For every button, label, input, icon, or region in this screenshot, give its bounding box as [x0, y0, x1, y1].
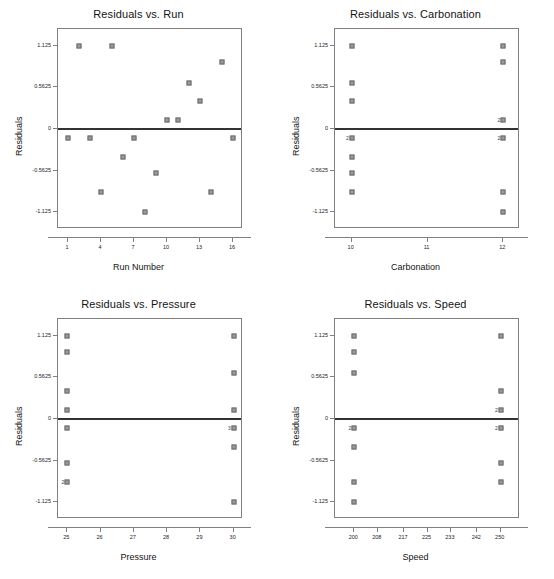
x-tick-label: 27 [130, 534, 136, 540]
x-tick-label: 25 [63, 534, 69, 540]
plot-frame [57, 28, 242, 228]
data-point [65, 389, 70, 394]
data-point [231, 500, 236, 505]
data-point [65, 350, 70, 355]
zero-reference-line [58, 418, 241, 420]
point-overlap-count: 2 [498, 135, 502, 141]
data-point [349, 189, 354, 194]
x-tick-mark [403, 528, 404, 532]
x-tick-label: 1 [65, 244, 68, 250]
x-tick-label: 225 [422, 534, 431, 540]
x-axis-label: Pressure [0, 552, 277, 562]
data-point [209, 189, 214, 194]
zero-reference-line [335, 128, 518, 130]
data-point [98, 189, 103, 194]
x-tick-label: 12 [499, 244, 505, 250]
y-axis-label: Residuals [14, 116, 24, 156]
y-tick-mark [330, 335, 334, 336]
data-point [231, 426, 236, 431]
y-tick-label: 0 [2, 415, 51, 421]
y-tick-mark [53, 45, 57, 46]
y-tick-mark [330, 86, 334, 87]
data-point [76, 43, 81, 48]
data-point [498, 333, 503, 338]
y-tick-mark [53, 128, 57, 129]
y-tick-label: 0.5625 [2, 373, 51, 379]
data-point [65, 461, 70, 466]
zero-reference-line [335, 418, 518, 420]
y-tick-label: 1.125 [2, 332, 51, 338]
x-tick-mark [100, 528, 101, 532]
data-point [65, 407, 70, 412]
y-tick-mark [330, 45, 334, 46]
y-tick-label: -0.5625 [279, 167, 328, 173]
y-axis-label: Residuals [14, 406, 24, 446]
y-tick-label: -1.125 [279, 498, 328, 504]
y-tick-mark [330, 501, 334, 502]
data-point [498, 426, 503, 431]
data-point [231, 370, 236, 375]
data-point [220, 60, 225, 65]
y-tick-mark [53, 211, 57, 212]
x-tick-mark [67, 238, 68, 242]
data-point [498, 479, 503, 484]
x-axis-line [48, 527, 251, 528]
data-point [65, 426, 70, 431]
data-point [131, 136, 136, 141]
data-point [142, 210, 147, 215]
data-point [352, 370, 357, 375]
x-tick-label: 250 [495, 534, 504, 540]
x-tick-mark [377, 528, 378, 532]
y-tick-label: 0 [279, 415, 328, 421]
data-point [165, 117, 170, 122]
data-point [349, 43, 354, 48]
data-point [231, 136, 236, 141]
data-point [87, 136, 92, 141]
x-tick-label: 242 [472, 534, 481, 540]
y-tick-mark [53, 501, 57, 502]
x-tick-label: 13 [196, 244, 202, 250]
x-tick-label: 11 [424, 244, 430, 250]
data-point [501, 189, 506, 194]
y-tick-label: 0.5625 [279, 83, 328, 89]
y-tick-mark [53, 335, 57, 336]
point-overlap-count: 2 [498, 117, 502, 123]
data-point [352, 500, 357, 505]
data-point [498, 389, 503, 394]
plot-frame: 23 [57, 318, 242, 518]
x-tick-mark [500, 528, 501, 532]
y-tick-mark [330, 211, 334, 212]
data-point [498, 407, 503, 412]
plot-frame: 222 [334, 318, 519, 518]
data-point [65, 479, 70, 484]
x-axis-label: Speed [277, 552, 554, 562]
x-tick-mark [166, 238, 167, 242]
point-overlap-count: 2 [349, 425, 353, 431]
panel-residuals-vs-run: Residuals vs. Run Residuals Run Number 1… [0, 0, 277, 289]
point-overlap-count: 2 [495, 425, 499, 431]
y-tick-mark [330, 170, 334, 171]
y-tick-label: 1.125 [279, 332, 328, 338]
chart-title: Residuals vs. Pressure [0, 298, 277, 310]
data-point [198, 99, 203, 104]
x-tick-label: 217 [398, 534, 407, 540]
x-tick-mark [133, 528, 134, 532]
point-overlap-count: 3 [228, 425, 232, 431]
y-tick-mark [330, 128, 334, 129]
y-tick-mark [330, 418, 334, 419]
data-point [231, 407, 236, 412]
data-point [352, 333, 357, 338]
data-point [349, 136, 354, 141]
x-tick-label: 26 [97, 534, 103, 540]
x-tick-mark [427, 238, 428, 242]
x-tick-mark [133, 238, 134, 242]
y-tick-label: 0 [279, 125, 328, 131]
data-point [352, 350, 357, 355]
x-tick-label: 10 [348, 244, 354, 250]
x-tick-label: 28 [163, 534, 169, 540]
x-axis-label: Run Number [0, 262, 277, 272]
data-point [352, 479, 357, 484]
y-tick-label: 0.5625 [279, 373, 328, 379]
x-tick-label: 10 [163, 244, 169, 250]
y-tick-label: -1.125 [279, 208, 328, 214]
